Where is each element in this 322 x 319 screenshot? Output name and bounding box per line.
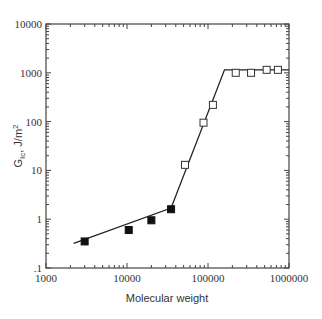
- filled-square-marker: [168, 206, 175, 213]
- y-tick-label: .1: [34, 262, 42, 274]
- plot-frame: [46, 24, 289, 268]
- y-tick-label: 1: [37, 213, 43, 225]
- chart: 1000100001000001000000 .1110100100010000…: [0, 0, 322, 319]
- open-square-marker: [263, 66, 270, 73]
- x-axis-ticks: 1000100001000001000000: [35, 24, 309, 284]
- open-square-marker: [274, 66, 281, 73]
- data-series: [74, 66, 289, 245]
- plot-border: [46, 24, 289, 268]
- y-axis-ticks: .1110100100010000: [15, 18, 290, 274]
- y-tick-label: 10: [31, 164, 43, 176]
- open-square-marker: [181, 161, 188, 168]
- y-tick-label: 10000: [15, 18, 43, 30]
- open-square-marker: [209, 101, 216, 108]
- fit-line: [74, 70, 289, 244]
- y-axis-title: GIc, J/m2: [11, 124, 27, 168]
- filled-square-marker: [148, 217, 155, 224]
- x-tick-label: 10000: [113, 272, 141, 284]
- filled-square-marker: [125, 227, 132, 234]
- open-square-marker: [232, 69, 239, 76]
- open-square-marker: [248, 69, 255, 76]
- x-tick-label: 1000000: [270, 272, 309, 284]
- open-square-marker: [200, 119, 207, 126]
- y-tick-label: 1000: [20, 67, 43, 79]
- x-tick-label: 100000: [192, 272, 226, 284]
- filled-square-marker: [81, 238, 88, 245]
- y-tick-label: 100: [26, 116, 43, 128]
- x-axis-title: Molecular weight: [126, 292, 209, 304]
